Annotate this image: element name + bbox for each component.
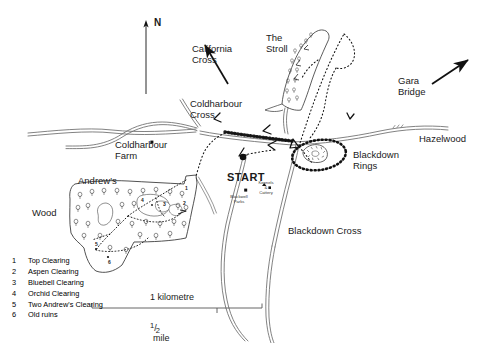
clearing-number-3: 3: [163, 202, 166, 208]
legend-item: 4 Orchid Clearing: [12, 289, 103, 300]
scale-bar: [92, 304, 262, 314]
start-marker-dot: [240, 154, 247, 161]
label-wood: Wood: [32, 208, 57, 219]
legend-label: Bluebell Clearing: [28, 278, 103, 289]
label-coldharbour-farm: Coldharbour Farm: [115, 140, 167, 161]
legend-item: 3 Bluebell Clearing: [12, 278, 103, 289]
clearing-number-6: 6: [108, 260, 111, 266]
clearing-number-5: 5: [95, 242, 98, 248]
legend-number: 5: [12, 300, 28, 311]
direction-arrow-gara-bridge: [432, 60, 468, 84]
legend-item: 5 Two Andrew's Clearing: [12, 300, 103, 311]
legend-item: 2 Aspen Clearing: [12, 267, 103, 278]
legend-number: 6: [12, 310, 28, 321]
compass-north-label: N: [154, 17, 161, 28]
label-andrews: Andrew's: [78, 176, 117, 187]
clearing-number-2: 2: [183, 201, 186, 207]
clearing-number-1: 1: [185, 186, 188, 192]
scale-bar-fraction: 1/2: [150, 323, 161, 333]
map-canvas: N California Cross The Stroll Gara Bridg…: [0, 0, 483, 343]
legend-item: 6 Old ruins: [12, 310, 103, 321]
label-gara-bridge: Gara Bridge: [398, 76, 425, 97]
legend-label: Orchid Clearing: [28, 289, 103, 300]
legend-number: 1: [12, 256, 28, 267]
north-arrow: [143, 20, 148, 94]
label-kennels-cattery: Kennels & Cattery: [252, 181, 280, 195]
label-the-stroll: The Stroll: [266, 33, 288, 54]
scale-bar-denominator: 2: [156, 326, 160, 335]
clearing-number-4: 4: [141, 198, 144, 204]
legend-label: Two Andrew's Clearing: [28, 300, 103, 311]
legend-number: 2: [12, 267, 28, 278]
label-hazelwood: Hazelwood: [419, 134, 466, 145]
legend-label: Aspen Clearing: [28, 267, 103, 278]
legend-label: Old ruins: [28, 310, 103, 321]
legend-number: 4: [12, 289, 28, 300]
legend-label: Top Clearing: [28, 256, 103, 267]
label-blackdown-rings: Blackdown Rings: [353, 150, 399, 171]
label-coldharbour-cross: Coldharbour Cross: [190, 99, 242, 120]
scale-bar-km-label: 1 kilometre: [150, 292, 194, 302]
scale-bar-mile-label: 1/2 mile: [140, 313, 170, 343]
legend-number: 3: [12, 278, 28, 289]
label-california-cross: California Cross: [192, 44, 232, 65]
legend: 1 Top Clearing 2 Aspen Clearing 3 Bluebe…: [12, 256, 103, 321]
label-blackdown-cross: Blackdown Cross: [288, 226, 361, 237]
legend-item: 1 Top Clearing: [12, 256, 103, 267]
label-blackwell-parks: Blackwell Parks: [222, 195, 256, 205]
scale-bar-numerator: 1: [150, 321, 154, 330]
